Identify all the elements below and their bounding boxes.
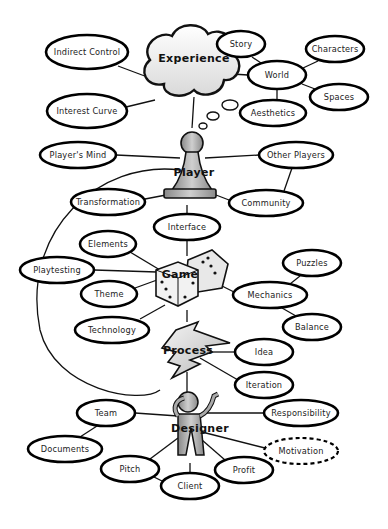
node-story: Story xyxy=(217,31,265,57)
node-label: Player's Mind xyxy=(50,150,107,160)
node-label: Motivation xyxy=(278,446,323,456)
node-iteration: Iteration xyxy=(235,372,293,398)
node-label: Mechanics xyxy=(248,290,293,300)
node-label: Iteration xyxy=(246,380,283,390)
node-characters: Characters xyxy=(306,36,364,62)
node-playtesting: Playtesting xyxy=(20,257,94,283)
node-documents: Documents xyxy=(28,436,102,462)
node-label: Community xyxy=(241,198,290,208)
node-label: Profit xyxy=(233,465,256,475)
node-label: Transformation xyxy=(75,197,140,207)
game-design-diagram: Experience Player Game Process Designer … xyxy=(0,0,388,529)
node-responsibility: Responsibility xyxy=(264,400,338,426)
node-label: Puzzles xyxy=(296,258,328,268)
node-label: Pitch xyxy=(120,464,141,474)
node-label: Other Players xyxy=(267,150,325,160)
node-label: Client xyxy=(178,481,203,491)
node-label: Idea xyxy=(255,347,273,357)
node-theme: Theme xyxy=(81,281,137,307)
game-dice-icon: Game xyxy=(156,250,228,306)
node-spaces: Spaces xyxy=(310,84,368,110)
node-label: Documents xyxy=(41,444,89,454)
node-label: Interface xyxy=(168,222,206,232)
node-label: Theme xyxy=(93,289,123,299)
node-label: Team xyxy=(94,408,117,418)
player-label: Player xyxy=(174,166,215,179)
node-pitch: Pitch xyxy=(101,456,159,482)
node-label: Aesthetics xyxy=(251,108,295,118)
node-label: Spaces xyxy=(324,92,354,102)
node-balance: Balance xyxy=(283,314,341,340)
node-world: World xyxy=(248,61,306,89)
experience-label: Experience xyxy=(158,52,229,65)
node-elements: Elements xyxy=(80,231,136,257)
designer-figure-icon: Designer xyxy=(171,392,229,455)
designer-label: Designer xyxy=(171,422,229,435)
node-motivation: Motivation xyxy=(264,438,338,464)
node-profit: Profit xyxy=(215,457,273,483)
game-label: Game xyxy=(162,268,199,281)
node-label: Technology xyxy=(87,325,136,335)
node-label: Playtesting xyxy=(33,265,81,275)
node-aesthetics: Aesthetics xyxy=(240,100,306,126)
node-interest-curve: Interest Curve xyxy=(47,94,127,128)
node-label: Characters xyxy=(312,44,359,54)
node-community: Community xyxy=(229,190,303,216)
node-idea: Idea xyxy=(235,339,293,365)
node-puzzles: Puzzles xyxy=(283,250,341,276)
node-client: Client xyxy=(161,473,219,499)
node-team: Team xyxy=(77,400,135,426)
node-indirect-control: Indirect Control xyxy=(46,35,128,69)
node-players-mind: Player's Mind xyxy=(40,142,116,168)
node-label: Balance xyxy=(295,322,329,332)
node-transformation: Transformation xyxy=(71,189,145,215)
process-label: Process xyxy=(163,344,213,357)
node-label: Indirect Control xyxy=(54,47,120,57)
player-pawn-icon: Player xyxy=(164,132,216,198)
node-label: Interest Curve xyxy=(56,106,117,116)
node-label: Elements xyxy=(88,239,128,249)
node-label: Story xyxy=(230,39,253,49)
node-label: Responsibility xyxy=(271,408,330,418)
node-label: World xyxy=(265,70,289,80)
node-other-players: Other Players xyxy=(259,142,333,168)
node-interface: Interface xyxy=(154,214,220,240)
node-technology: Technology xyxy=(75,317,149,343)
node-mechanics: Mechanics xyxy=(233,282,307,308)
